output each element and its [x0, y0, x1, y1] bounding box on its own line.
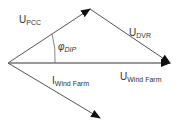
phi-dip-angle-arc: [52, 34, 55, 63]
phi-dip-label: φDIP: [58, 42, 76, 53]
u-wind-farm-label: UWind Farm: [120, 72, 161, 83]
u-dvr-label: UDVR: [129, 28, 151, 39]
i-wind-farm-label: IWind Farm: [52, 76, 89, 87]
i-wind-farm-vector: [8, 63, 100, 118]
u-pcc-label: UPCC: [19, 15, 41, 26]
